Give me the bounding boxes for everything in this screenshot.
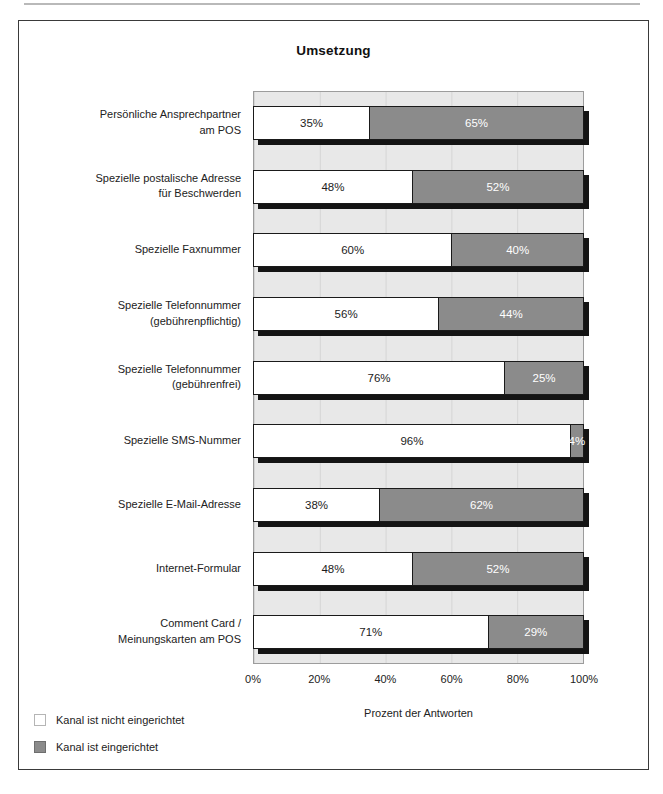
bar-value-label: 44%	[500, 308, 523, 320]
bar-track: 71%29%	[253, 615, 584, 649]
bar-value-label: 48%	[321, 181, 344, 193]
bar-track: 48%52%	[253, 170, 584, 204]
bar-row: Comment Card / Meinungskarten am POS71%2…	[19, 600, 648, 664]
bar-segment-established: 29%	[488, 616, 583, 648]
legend-swatch-white-icon	[34, 714, 46, 726]
bar-segment-established: 40%	[451, 234, 583, 266]
category-label: Spezielle SMS-Nummer	[19, 433, 241, 449]
stacked-bar: 48%52%	[253, 170, 584, 204]
bar-value-label: 38%	[305, 499, 328, 511]
bar-segment-not-established: 76%	[254, 362, 504, 394]
legend-label: Kanal ist nicht eingerichtet	[56, 714, 184, 726]
bar-track: 35%65%	[253, 106, 584, 140]
bar-track: 38%62%	[253, 488, 584, 522]
bar-track: 60%40%	[253, 233, 584, 267]
stacked-bar: 35%65%	[253, 106, 584, 140]
page: Umsetzung Persönliche Ansprechpartner am…	[0, 0, 663, 794]
stacked-bar: 48%52%	[253, 552, 584, 586]
bar-row: Spezielle Telefonnummer (gebührenfrei)76…	[19, 346, 648, 410]
x-tick-label: 40%	[374, 673, 396, 685]
bar-track: 48%52%	[253, 552, 584, 586]
bar-row: Spezielle postalische Adresse für Beschw…	[19, 155, 648, 219]
stacked-bar: 38%62%	[253, 488, 584, 522]
bar-value-label: 52%	[486, 563, 509, 575]
category-label: Spezielle Faxnummer	[19, 242, 241, 258]
category-label: Persönliche Ansprechpartner am POS	[19, 107, 241, 139]
bar-segment-not-established: 56%	[254, 298, 438, 330]
category-label: Spezielle postalische Adresse für Beschw…	[19, 171, 241, 203]
bar-value-label: 76%	[368, 372, 391, 384]
bar-row: Persönliche Ansprechpartner am POS35%65%	[19, 91, 648, 155]
x-tick-label: 20%	[308, 673, 330, 685]
bar-segment-established: 44%	[438, 298, 583, 330]
category-label: Spezielle Telefonnummer (gebührenpflicht…	[19, 298, 241, 330]
bar-row: Spezielle SMS-Nummer96%4%	[19, 409, 648, 473]
chart-title: Umsetzung	[19, 43, 648, 58]
stacked-bar: 76%25%	[253, 361, 584, 395]
bar-value-label: 35%	[300, 117, 323, 129]
x-tick-label: 0%	[245, 673, 261, 685]
bar-segment-not-established: 48%	[254, 553, 412, 585]
bar-row: Spezielle Telefonnummer (gebührenpflicht…	[19, 282, 648, 346]
bar-segment-established: 25%	[504, 362, 583, 394]
bar-value-label: 52%	[486, 181, 509, 193]
x-tick-label: 100%	[570, 673, 598, 685]
stacked-bar: 96%4%	[253, 424, 584, 458]
bar-value-label: 60%	[341, 244, 364, 256]
bar-segment-not-established: 35%	[254, 107, 369, 139]
bar-row: Spezielle E-Mail-Adresse38%62%	[19, 473, 648, 537]
bar-segment-not-established: 71%	[254, 616, 488, 648]
category-label: Spezielle Telefonnummer (gebührenfrei)	[19, 362, 241, 394]
bar-track: 76%25%	[253, 361, 584, 395]
bar-segment-established: 65%	[369, 107, 583, 139]
bar-row: Spezielle Faxnummer60%40%	[19, 218, 648, 282]
bar-segment-established: 52%	[412, 171, 583, 203]
bar-segment-established: 52%	[412, 553, 583, 585]
bar-segment-not-established: 60%	[254, 234, 451, 266]
bar-value-label: 56%	[335, 308, 358, 320]
bar-segment-not-established: 38%	[254, 489, 379, 521]
category-label: Spezielle E-Mail-Adresse	[19, 497, 241, 513]
legend: Kanal ist nicht eingerichtet Kanal ist e…	[34, 713, 184, 767]
bar-value-label: 29%	[524, 626, 547, 638]
bar-segment-not-established: 96%	[254, 425, 570, 457]
chart-frame: Umsetzung Persönliche Ansprechpartner am…	[18, 20, 649, 770]
bar-value-label: 96%	[400, 435, 423, 447]
x-axis-ticks: 0%20%40%60%80%100%	[19, 673, 648, 689]
legend-item-established: Kanal ist eingerichtet	[34, 740, 184, 753]
bar-segment-established: 4%	[570, 425, 583, 457]
bar-value-label: 4%	[569, 435, 586, 447]
bar-segment-not-established: 48%	[254, 171, 412, 203]
bar-track: 56%44%	[253, 297, 584, 331]
bar-value-label: 25%	[532, 372, 555, 384]
bar-row: Internet-Formular48%52%	[19, 537, 648, 601]
scan-edge-artifact	[24, 3, 640, 5]
stacked-bar: 56%44%	[253, 297, 584, 331]
bar-track: 96%4%	[253, 424, 584, 458]
stacked-bar: 60%40%	[253, 233, 584, 267]
legend-label: Kanal ist eingerichtet	[56, 741, 158, 753]
bar-segment-established: 62%	[379, 489, 583, 521]
bar-value-label: 71%	[359, 626, 382, 638]
bar-rows: Persönliche Ansprechpartner am POS35%65%…	[19, 91, 648, 664]
x-tick-label: 80%	[507, 673, 529, 685]
bar-value-label: 65%	[465, 117, 488, 129]
x-tick-label: 60%	[441, 673, 463, 685]
category-label: Comment Card / Meinungskarten am POS	[19, 616, 241, 648]
legend-item-not-established: Kanal ist nicht eingerichtet	[34, 713, 184, 726]
stacked-bar: 71%29%	[253, 615, 584, 649]
category-label: Internet-Formular	[19, 561, 241, 577]
bar-value-label: 48%	[321, 563, 344, 575]
bar-value-label: 40%	[506, 244, 529, 256]
legend-swatch-gray-icon	[34, 741, 46, 753]
bar-value-label: 62%	[470, 499, 493, 511]
x-axis-title: Prozent der Antworten	[253, 707, 584, 719]
